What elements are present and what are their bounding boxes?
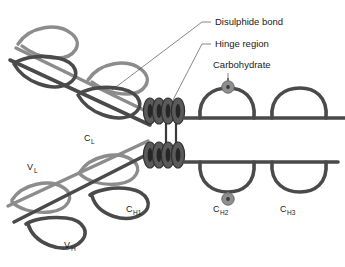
svg-text:C: C: [126, 204, 133, 214]
lower-fc-region: [184, 162, 338, 192]
annotation-hinge-region: Hinge region: [215, 38, 269, 49]
domain-label-c-l: C L: [84, 133, 95, 145]
svg-text:L: L: [91, 138, 95, 145]
domain-label-c-h3: C H3: [280, 204, 296, 216]
upper-heavy-chain-fab: [10, 56, 150, 125]
lower-light-chain: [8, 141, 148, 212]
svg-text:V: V: [64, 240, 70, 250]
lower-hinge-beads: [143, 142, 184, 168]
hinge-bead: [171, 142, 184, 168]
ch2-domain-lower: [200, 162, 254, 192]
carbohydrate-lower: [222, 192, 234, 205]
domain-label-v-l: V L: [27, 162, 38, 174]
leader-hinge: [173, 44, 202, 100]
lower-fab-arm: [8, 141, 152, 248]
svg-text:L: L: [34, 167, 38, 174]
domain-label-c-h2: C H2: [213, 204, 229, 216]
hinge-region: [143, 98, 184, 168]
ch3-domain-lower: [272, 162, 326, 192]
upper-hinge-beads: [143, 98, 184, 124]
domain-label-c-h1: C H1: [126, 204, 142, 216]
svg-text:V: V: [27, 162, 33, 172]
svg-text:H1: H1: [133, 209, 142, 216]
annotation-carbohydrate: Carbohydrate: [213, 59, 271, 70]
ch3-domain-upper: [272, 88, 326, 118]
antibody-structure-diagram: Disulphide bond Hinge region Carbohydrat…: [0, 0, 345, 267]
domain-label-v-h: V H: [64, 240, 76, 252]
annotation-disulphide-bond: Disulphide bond: [215, 16, 283, 27]
svg-text:H2: H2: [220, 209, 229, 216]
hinge-bead: [171, 98, 184, 124]
svg-text:H3: H3: [287, 209, 296, 216]
upper-fc-region: [184, 88, 345, 118]
svg-text:C: C: [213, 204, 220, 214]
svg-text:C: C: [84, 133, 91, 143]
carbohydrate-upper: [222, 78, 234, 93]
svg-text:H: H: [71, 245, 76, 252]
leader-disulphide: [112, 22, 202, 90]
svg-text:C: C: [280, 204, 287, 214]
annotation-leader-lines: [112, 22, 228, 100]
